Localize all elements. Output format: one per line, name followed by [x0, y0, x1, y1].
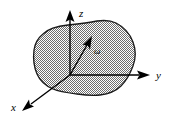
omega-vector-label: ω: [94, 46, 100, 56]
axis-z-label: z: [78, 7, 84, 19]
figure-canvas: z y x ω: [0, 0, 173, 122]
axis-x-arrowhead: [22, 100, 34, 112]
rigid-body-axes-figure: z y x ω: [0, 0, 173, 122]
rigid-body-shape: [34, 20, 136, 95]
axis-x-label: x: [10, 101, 16, 113]
rigid-body-outline: [34, 20, 136, 95]
axis-y-label: y: [155, 69, 161, 81]
